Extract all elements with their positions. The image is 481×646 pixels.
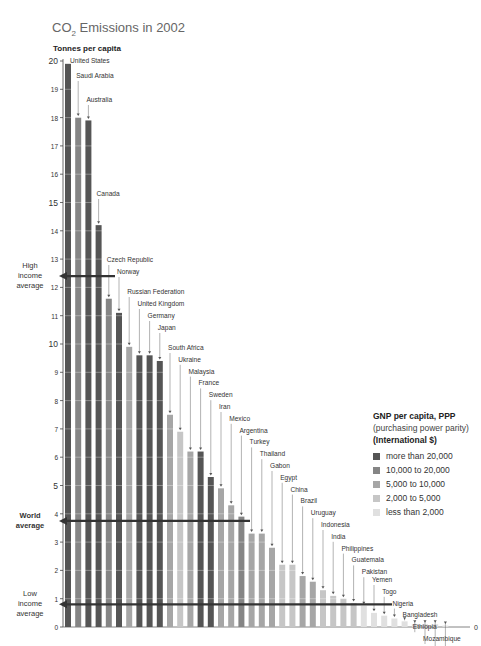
- bar: [96, 225, 102, 627]
- legend-label: 10,000 to 20,000: [386, 464, 450, 476]
- bar: [136, 355, 142, 627]
- bar: [259, 534, 265, 627]
- legend-swatch: [373, 467, 380, 474]
- country-label: China: [290, 486, 308, 493]
- arrow-icon: [97, 221, 100, 224]
- y-tick-label: 0: [54, 624, 58, 631]
- country-label: Russian Federation: [127, 288, 185, 295]
- country-label: Japan: [158, 324, 176, 332]
- y-tick-label: 11: [51, 313, 58, 320]
- y-tick-label: 7: [54, 426, 58, 433]
- bar: [249, 534, 255, 627]
- y-tick-label: 20: [49, 56, 59, 66]
- bar: [126, 347, 132, 627]
- legend-title: GNP per capita, PPP: [373, 410, 469, 422]
- y-tick-label: 1: [54, 596, 58, 603]
- legend-swatch: [373, 481, 380, 488]
- arrow-icon: [373, 609, 376, 612]
- legend-subtitle: (purchasing power parity): [373, 422, 469, 434]
- legend-label: more than 20,000: [386, 450, 453, 462]
- bar: [238, 517, 244, 627]
- country-label: Canada: [97, 190, 120, 197]
- y-tick-label: 16: [51, 171, 59, 178]
- bar: [85, 120, 91, 627]
- legend-label: 5,000 to 10,000: [386, 478, 445, 490]
- country-label: Uruguay: [311, 509, 337, 517]
- y-tick-label: 15: [49, 198, 59, 208]
- bar: [402, 621, 408, 627]
- country-label: India: [331, 533, 346, 540]
- legend-item: 5,000 to 10,000: [373, 477, 469, 491]
- y-tick-label: 9: [54, 369, 58, 376]
- arrow-icon: [383, 612, 386, 615]
- y-tick-label: 3: [54, 539, 58, 546]
- country-label: Turkey: [250, 438, 271, 446]
- bar: [177, 432, 183, 627]
- bar: [330, 596, 336, 627]
- country-label: Australia: [86, 96, 112, 103]
- country-label: Thailand: [260, 450, 286, 457]
- arrow-icon: [158, 357, 161, 360]
- country-label: Czech Republic: [107, 256, 154, 264]
- bar: [371, 613, 377, 627]
- bar: [351, 603, 357, 627]
- bar: [147, 355, 153, 627]
- country-label: South Africa: [168, 344, 204, 351]
- bar: [65, 64, 71, 627]
- y-tick-label: 10: [49, 339, 59, 349]
- y-tick-label: 4: [54, 511, 58, 518]
- country-label: Nigeria: [392, 600, 413, 608]
- arrow-icon: [199, 448, 202, 451]
- average-label: income: [18, 271, 42, 280]
- legend-item: less than 2,000: [373, 505, 469, 519]
- arrow-icon: [189, 448, 192, 451]
- country-label: Argentina: [239, 427, 268, 435]
- y-tick-label: 6: [54, 454, 58, 461]
- country-label: Togo: [382, 588, 397, 596]
- arrow-icon: [271, 544, 274, 547]
- country-label: Yemen: [372, 576, 393, 583]
- arrow-icon: [138, 351, 141, 354]
- legend-unit: (International $): [373, 434, 469, 446]
- arrow-icon: [230, 501, 233, 504]
- arrow-icon: [77, 114, 80, 117]
- bar-chart: 012345678910111213141516171819200United …: [0, 0, 481, 646]
- average-label: average: [16, 609, 43, 618]
- bar: [187, 452, 193, 627]
- arrow-icon: [118, 309, 121, 312]
- bar: [289, 565, 295, 627]
- legend-swatch: [373, 509, 380, 516]
- y-tick-label: 12: [51, 284, 59, 291]
- legend-item: 10,000 to 20,000: [373, 463, 469, 477]
- y-tick-label: 2: [54, 567, 58, 574]
- arrow-icon: [281, 561, 284, 564]
- arrow-icon: [393, 615, 396, 618]
- bar: [116, 313, 122, 627]
- average-label: High: [22, 261, 37, 270]
- y-tick-label: 5: [53, 481, 58, 491]
- country-label: Germany: [148, 312, 176, 320]
- country-label: United Kingdom: [137, 300, 184, 308]
- country-label: United States: [70, 57, 110, 64]
- arrow-icon: [311, 578, 314, 581]
- bar: [361, 606, 367, 627]
- bar: [320, 590, 326, 627]
- country-label: Malaysia: [188, 368, 214, 376]
- legend-swatch: [373, 495, 380, 502]
- bar: [340, 599, 346, 627]
- legend-label: less than 2,000: [386, 506, 444, 518]
- arrow-icon: [209, 473, 212, 476]
- country-label: Mozambique: [423, 635, 461, 643]
- legend-item: more than 20,000: [373, 449, 469, 463]
- average-label: average: [16, 521, 44, 530]
- arrow-icon: [352, 599, 355, 602]
- bar: [228, 505, 234, 627]
- country-label: Norway: [117, 268, 140, 276]
- legend-item: 2,000 to 5,000: [373, 491, 469, 505]
- x-axis-zero-label: 0: [474, 624, 478, 631]
- bar: [106, 299, 112, 627]
- arrow-icon: [260, 530, 263, 533]
- arrow-icon: [148, 351, 151, 354]
- country-label: Saudi Arabia: [76, 72, 114, 79]
- country-label: Indonesia: [321, 521, 350, 528]
